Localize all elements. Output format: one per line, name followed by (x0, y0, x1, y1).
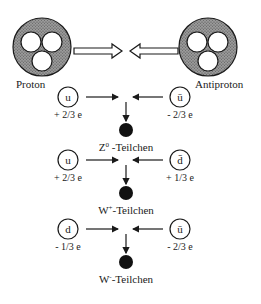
left-quark-symbol: u (65, 154, 71, 166)
left-quark-charge: + 2/3 e (54, 109, 82, 120)
proton-quark-2 (42, 32, 62, 52)
left-quark-charge: + 2/3 e (54, 172, 82, 183)
antiproton-quark-3 (198, 51, 218, 71)
right-quark-symbol: ū (177, 223, 183, 235)
proton-label: Proton (16, 78, 46, 90)
product-label: W--Teilchen (99, 273, 154, 285)
right-quark-symbol: d̄ (177, 154, 183, 166)
quark-annihilation-diagram: Proton Antiproton u+ 2/3 eū- 2/3 eZ0 -Te… (0, 0, 261, 304)
reaction-row: u+ 2/3 ed̄+ 1/3 eW+-Teilchen (54, 150, 194, 216)
product-particle (119, 186, 133, 200)
proton-quark-3 (32, 51, 52, 71)
right-quark-charge: + 1/3 e (166, 172, 194, 183)
right-quark-symbol: ū (177, 91, 183, 103)
reaction-row: d- 1/3 eū- 2/3 eW--Teilchen (55, 219, 193, 285)
proton: Proton (13, 18, 71, 90)
left-quark-symbol: u (65, 91, 71, 103)
right-quark-charge: - 2/3 e (167, 109, 193, 120)
product-particle (119, 123, 133, 137)
antiproton-label: Antiproton (195, 78, 244, 90)
left-quark-charge: - 1/3 e (55, 241, 81, 252)
reaction-row: u+ 2/3 eū- 2/3 eZ0 -Teilchen (54, 87, 193, 153)
antiproton: Antiproton (179, 18, 244, 90)
product-label: Z0 -Teilchen (99, 141, 154, 153)
hollow-arrow-left (130, 44, 178, 58)
antiproton-quark-2 (208, 32, 228, 52)
product-particle (119, 255, 133, 269)
hollow-arrow-right (74, 44, 122, 58)
right-quark-charge: - 2/3 e (167, 241, 193, 252)
antiproton-quark-1 (187, 32, 207, 52)
left-quark-symbol: d (65, 223, 71, 235)
proton-quark-1 (21, 32, 41, 52)
product-label: W+-Teilchen (98, 204, 154, 216)
